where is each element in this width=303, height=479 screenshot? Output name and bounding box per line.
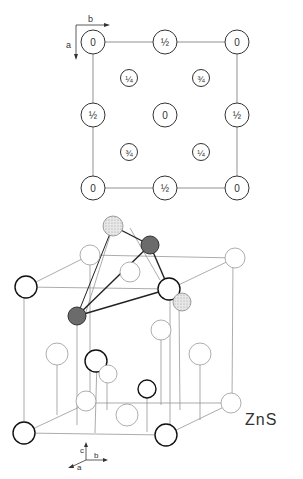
axis-label-c: c [80,446,84,455]
s-atom [173,293,191,311]
s-atom [13,422,35,444]
s-atom [80,245,100,265]
projection-atom-quarter-br: ¼ [193,144,210,161]
atom-height-label: 0 [234,37,240,48]
s-atom [99,365,117,383]
axis-label-a3d: a [77,463,82,472]
projection-atom-quarter-tr: ¾ [193,70,210,87]
projection-view: b a 0½0¼¾½0½¾¼0½0 [66,14,249,200]
projection-atom-edge-right: ½ [225,103,249,127]
projection-atom-edge-left: ½ [81,103,105,127]
s-atom [221,393,241,413]
atom-height-label: 0 [90,183,96,194]
axis-label-b: b [88,14,93,24]
axis-label-b3d: b [94,451,99,460]
compound-label: ZnS [245,411,277,428]
atom-height-label: ¾ [125,148,133,158]
s-atom [138,380,156,398]
atom-height-label: ¾ [197,74,205,84]
projection-atom-quarter-bl: ¾ [121,144,138,161]
projection-atom-corner-bottom-left: 0 [81,176,105,200]
s-atom [225,248,245,268]
s-atom [15,276,37,298]
projection-atom-corner-top-left: 0 [81,30,105,54]
projection-atom-center: 0 [153,103,177,127]
zn-atom [141,236,159,254]
projection-atom-corner-top-right: 0 [225,30,249,54]
s-atom [120,262,140,282]
atom-height-label: ¼ [197,148,205,158]
projection-atom-quarter-tl: ¼ [121,70,138,87]
atom-height-label: 0 [234,183,240,194]
projection-atom-edge-top: ½ [153,30,177,54]
s-atom [103,216,123,236]
s-atom [151,320,171,340]
atom-height-label: ½ [161,37,170,48]
s-atom [189,343,211,365]
atom-height-label: 0 [90,37,96,48]
axis-label-a: a [66,40,71,50]
s-atom [76,391,96,411]
unit-cell-3d [24,226,235,435]
zn-atom [68,307,86,325]
projection-atom-edge-bottom: ½ [153,176,177,200]
s-atom [155,424,177,446]
s-atom [46,343,68,365]
atom-height-label: 0 [162,110,168,121]
s-atom [116,404,138,426]
structure-axes: c b a [68,442,108,472]
atom-height-label: ½ [161,183,170,194]
atom-height-label: ¼ [125,74,133,84]
projection-atom-corner-bottom-right: 0 [225,176,249,200]
zns-structure-diagram: b a 0½0¼¾½0½¾¼0½0 [0,0,303,479]
atom-height-label: ½ [233,110,242,121]
atom-height-label: ½ [89,110,98,121]
